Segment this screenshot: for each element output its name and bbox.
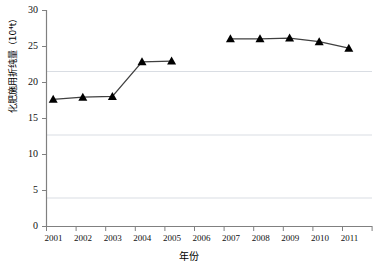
data-series-line <box>53 38 349 99</box>
y-tick-label: 5 <box>12 184 38 195</box>
x-tick-label: 2010 <box>305 233 334 243</box>
x-tick-label: 2007 <box>217 233 246 243</box>
y-tick-label: 0 <box>12 220 38 231</box>
plot-area-svg <box>0 0 378 272</box>
y-axis-ticks <box>42 11 46 227</box>
x-tick-label: 2011 <box>335 233 364 243</box>
y-tick-label: 25 <box>12 40 38 51</box>
chart-container: 化肥施用折纯量（10⁴t） <box>0 0 378 272</box>
x-tick-label: 2003 <box>98 233 127 243</box>
x-tick-label: 2008 <box>246 233 275 243</box>
x-tick-label: 2005 <box>157 233 186 243</box>
x-tick-label: 2009 <box>276 233 305 243</box>
y-tick-label: 30 <box>12 4 38 15</box>
data-point-markers <box>49 34 354 103</box>
x-tick-label: 2002 <box>69 233 98 243</box>
y-tick-label: 20 <box>12 76 38 87</box>
x-tick-label: 2001 <box>39 233 68 243</box>
y-tick-label: 15 <box>12 112 38 123</box>
x-tick-label: 2006 <box>187 233 216 243</box>
x-tick-label: 2004 <box>128 233 157 243</box>
y-tick-label: 10 <box>12 148 38 159</box>
gridlines <box>46 72 372 199</box>
x-axis-title: 年份 <box>0 248 378 263</box>
